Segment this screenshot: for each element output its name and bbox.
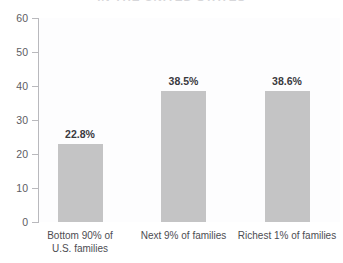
y-axis-tick	[32, 222, 38, 223]
y-axis-line	[38, 18, 39, 223]
y-axis-tick	[32, 188, 38, 189]
y-axis-tick	[32, 154, 38, 155]
bar[interactable]	[58, 144, 103, 222]
category-label: Bottom 90% ofU.S. families	[47, 230, 113, 255]
y-axis-tick-label: 0	[0, 217, 28, 228]
y-axis-tick	[32, 86, 38, 87]
y-axis-tick	[32, 18, 38, 19]
category-label-line: Next 9% of families	[141, 230, 227, 243]
y-axis-tick-label: 30	[0, 115, 28, 126]
y-axis-tick	[32, 120, 38, 121]
y-axis-tick-label: 40	[0, 81, 28, 92]
category-label-line: Bottom 90% of	[47, 230, 113, 243]
bar-value-label: 38.6%	[272, 75, 302, 87]
bar-value-label: 38.5%	[169, 75, 199, 87]
bar[interactable]	[265, 91, 310, 222]
bar[interactable]	[161, 91, 206, 222]
y-axis-tick-label: 50	[0, 47, 28, 58]
y-axis-tick-label: 20	[0, 149, 28, 160]
y-axis-tick-label: 10	[0, 183, 28, 194]
category-label-line: Richest 1% of families	[238, 230, 336, 243]
chart-title: IN THE UNITED STATES	[0, 0, 343, 3]
y-axis-tick-label: 60	[0, 13, 28, 24]
bar-value-label: 22.8%	[65, 128, 95, 140]
category-label: Richest 1% of families	[238, 230, 336, 243]
category-label-line: U.S. families	[47, 243, 113, 256]
category-label: Next 9% of families	[141, 230, 227, 243]
bar-chart: IN THE UNITED STATES 0102030405060 22.8%…	[0, 0, 343, 263]
y-axis-tick	[32, 52, 38, 53]
